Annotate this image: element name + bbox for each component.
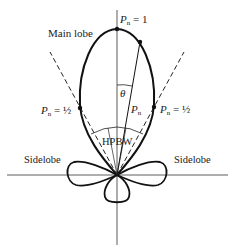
hpbw-label: HPBW	[102, 136, 132, 147]
theta-label: θ	[120, 87, 126, 99]
radiation-pattern-diagram: Main lobe Pn = 1 Pn = ½ Pn = ½ θ Pn HPBW…	[0, 0, 232, 247]
peak-label: Pn = 1	[119, 13, 147, 27]
radius-label: Pn	[130, 103, 142, 117]
half-power-label-right: Pn = ½	[159, 103, 190, 117]
lobe-point	[138, 40, 142, 44]
half-power-label-left: Pn = ½	[40, 104, 71, 118]
sidelobe-left-label: Sidelobe	[24, 154, 61, 165]
diagram-canvas: Main lobe Pn = 1 Pn = ½ Pn = ½ θ Pn HPBW…	[0, 0, 232, 247]
main-lobe-label: Main lobe	[48, 27, 93, 39]
theta-arc	[117, 85, 132, 86]
sidelobe-right-label: Sidelobe	[174, 154, 211, 165]
half-power-point-left	[78, 106, 82, 110]
half-power-point-right	[152, 105, 156, 109]
peak-point	[115, 27, 119, 31]
